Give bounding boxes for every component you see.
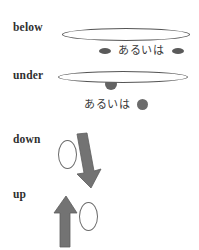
filled-circle-icon xyxy=(137,99,148,110)
diagram-canvas: below あるいは under あるいは down up xyxy=(0,0,199,250)
flat-ellipse-below xyxy=(62,28,190,41)
up-arrow-icon xyxy=(52,196,82,248)
row-label-up: up xyxy=(13,189,26,201)
outline-oval-up xyxy=(79,202,98,231)
small-filled-ellipse-icon xyxy=(172,48,184,54)
flat-ellipse-under xyxy=(58,71,188,83)
alternative-row-under: あるいは xyxy=(84,99,148,110)
row-label-below: below xyxy=(13,22,43,34)
small-filled-ellipse-icon xyxy=(99,48,111,54)
row-label-down: down xyxy=(13,134,41,146)
down-arrow-icon xyxy=(74,133,108,189)
alternative-label-below: あるいは xyxy=(118,45,164,56)
alternative-row-below: あるいは xyxy=(99,45,184,56)
row-label-under: under xyxy=(13,70,43,82)
alternative-label-under: あるいは xyxy=(84,99,130,110)
